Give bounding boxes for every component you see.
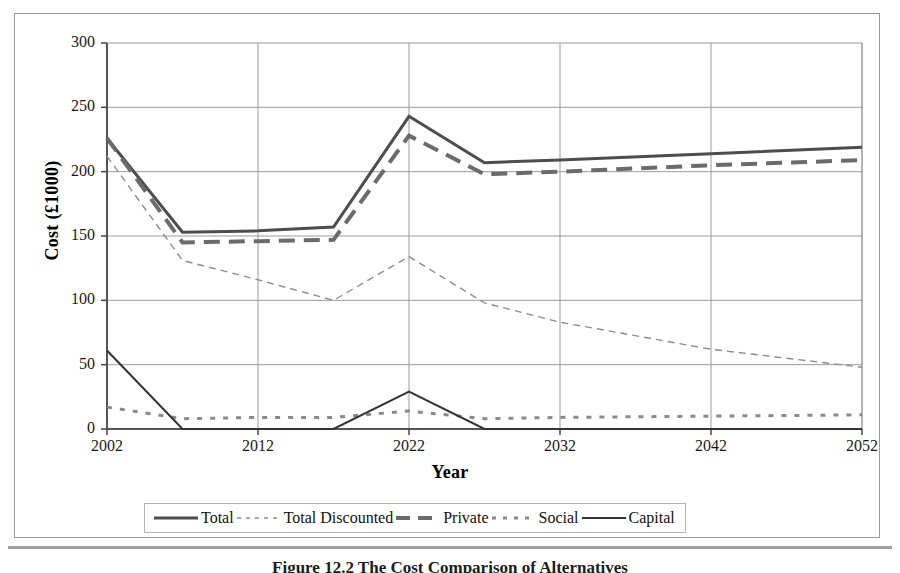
line-chart <box>0 0 900 573</box>
legend-label: Total Discounted <box>284 509 394 527</box>
x-axis-title: Year <box>0 462 900 483</box>
y-tick-label: 50 <box>49 356 95 372</box>
x-tick-label: 2032 <box>525 438 595 454</box>
y-axis-title: Cost (£1000) <box>42 121 63 301</box>
y-tick-label: 0 <box>49 420 95 436</box>
chart-legend: TotalTotal DiscountedPrivateSocialCapita… <box>144 503 686 533</box>
legend-label: Social <box>539 509 579 527</box>
solid-thin-line-swatch <box>581 511 627 525</box>
y-tick-label: 250 <box>49 98 95 114</box>
x-tick-label: 2042 <box>676 438 746 454</box>
solid-thick-line-swatch <box>153 511 199 525</box>
legend-label: Capital <box>629 509 675 527</box>
y-tick-label: 100 <box>49 291 95 307</box>
legend-entry[interactable]: Total <box>153 509 236 527</box>
y-tick-label: 300 <box>49 34 95 50</box>
x-tick-label: 2012 <box>223 438 293 454</box>
legend-entry[interactable]: Social <box>491 509 581 527</box>
legend-label: Total <box>201 509 234 527</box>
dotted-thin-line-swatch <box>236 511 282 525</box>
legend-label: Private <box>443 509 488 527</box>
y-tick-label: 150 <box>49 227 95 243</box>
x-tick-label: 2002 <box>72 438 142 454</box>
figure-caption: Figure 12.2 The Cost Comparison of Alter… <box>0 558 900 573</box>
y-tick-label: 200 <box>49 163 95 179</box>
dotted-square-line-swatch <box>491 511 537 525</box>
legend-entry[interactable]: Private <box>395 509 490 527</box>
x-tick-label: 2052 <box>827 438 897 454</box>
legend-entry[interactable]: Capital <box>581 509 677 527</box>
dashed-thick-line-swatch <box>395 511 441 525</box>
legend-entry[interactable]: Total Discounted <box>236 509 396 527</box>
x-tick-label: 2022 <box>374 438 444 454</box>
